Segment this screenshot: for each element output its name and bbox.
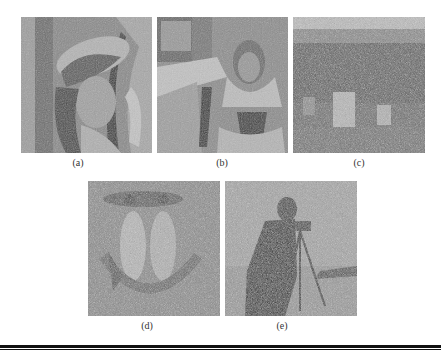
panel-d-image: [88, 181, 220, 316]
panel-b-label: (b): [202, 157, 242, 168]
figure-bottom-rule: [0, 345, 441, 348]
panel-c-image: [293, 17, 425, 153]
figure-bottom-rule-thin: [0, 349, 441, 350]
panel-e-image: [225, 181, 357, 316]
panel-d-label: (d): [127, 320, 167, 331]
panel-e-label: (e): [262, 320, 302, 331]
panel-b-image: [157, 17, 288, 153]
panel-c-label: (c): [339, 157, 379, 168]
panel-a-label: (a): [58, 157, 98, 168]
panel-a-image: [21, 17, 152, 153]
